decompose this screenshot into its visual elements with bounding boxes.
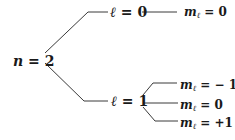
ml-eq: =	[200, 5, 218, 19]
l0-value: 0	[137, 4, 147, 20]
ml-var: m	[184, 5, 197, 19]
edge-n-to-l0	[45, 12, 108, 53]
ml-value: 0	[219, 5, 227, 19]
l1-eq: =	[117, 93, 138, 109]
ml-var: m	[180, 116, 193, 130]
leaf-l1-ml0: mℓ = 0	[180, 99, 223, 112]
ml-eq: =	[196, 98, 214, 112]
node-l0: ℓ = 0	[110, 5, 147, 19]
leaf-l1-ml-plus1: mℓ = +1	[180, 117, 233, 130]
root-eq: =	[23, 53, 44, 69]
root-node-n: n = 2	[13, 54, 54, 68]
edge-n-to-l1	[45, 63, 108, 101]
leaf-l0-ml0: mℓ = 0	[184, 6, 227, 19]
ml-eq: =	[196, 116, 214, 130]
ml-value: − 1	[215, 78, 235, 92]
edge-l1-to-ml-plus1	[143, 107, 178, 121]
l0-eq: =	[116, 4, 137, 20]
ml-var: m	[180, 98, 193, 112]
quantum-number-tree: n = 2 ℓ = 0 ℓ = 1 mℓ = 0 mℓ = − 1 mℓ = 0…	[0, 0, 235, 140]
node-l1: ℓ = 1	[111, 94, 148, 108]
root-var: n	[13, 53, 23, 69]
root-value: 2	[45, 53, 55, 69]
leaf-l1-ml-minus1: mℓ = − 1	[180, 79, 235, 92]
ml-eq: =	[196, 78, 214, 92]
ml-value: 0	[215, 98, 223, 112]
ml-var: m	[180, 78, 193, 92]
ml-value: +1	[215, 116, 233, 130]
l1-value: 1	[138, 93, 148, 109]
